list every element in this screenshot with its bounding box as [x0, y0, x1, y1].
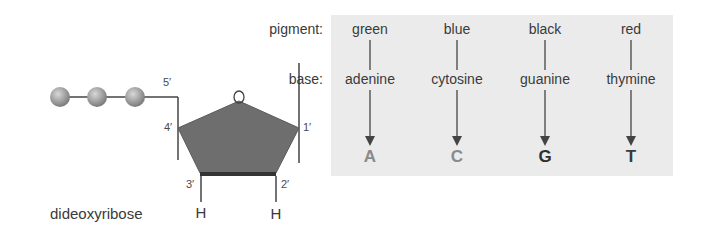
c3-label: 3′ — [186, 178, 194, 190]
pigment-label: pigment: — [269, 21, 323, 37]
c1-label: 1′ — [303, 121, 311, 133]
c2-hydrogen: H — [271, 205, 282, 222]
phosphate-sphere-3 — [125, 87, 145, 107]
base-cytosine: cytosine — [431, 71, 482, 87]
letter-g: G — [538, 147, 551, 167]
base-thymine: thymine — [606, 71, 655, 87]
pigment-blue: blue — [444, 21, 470, 37]
phosphate-chain — [50, 87, 178, 107]
base-guanine: guanine — [520, 71, 570, 87]
letter-c: C — [451, 147, 463, 167]
pigment-black: black — [529, 21, 562, 37]
base-adenine: adenine — [345, 71, 395, 87]
c3-hydrogen: H — [196, 204, 207, 221]
c5-label: 5′ — [163, 76, 171, 88]
dideoxy-diagram — [0, 0, 701, 238]
sugar-ring — [178, 101, 299, 173]
c4-label: 4′ — [164, 121, 172, 133]
phosphate-sphere-2 — [87, 87, 107, 107]
letter-t: T — [626, 147, 636, 167]
sugar-label: dideoxyribose — [50, 205, 143, 222]
column-connectors — [365, 40, 636, 146]
pigment-red: red — [621, 21, 641, 37]
letter-a: A — [364, 147, 376, 167]
c2-label: 2′ — [281, 178, 289, 190]
base-label: base: — [289, 71, 323, 87]
phosphate-sphere-1 — [50, 87, 70, 107]
pigment-green: green — [352, 21, 388, 37]
